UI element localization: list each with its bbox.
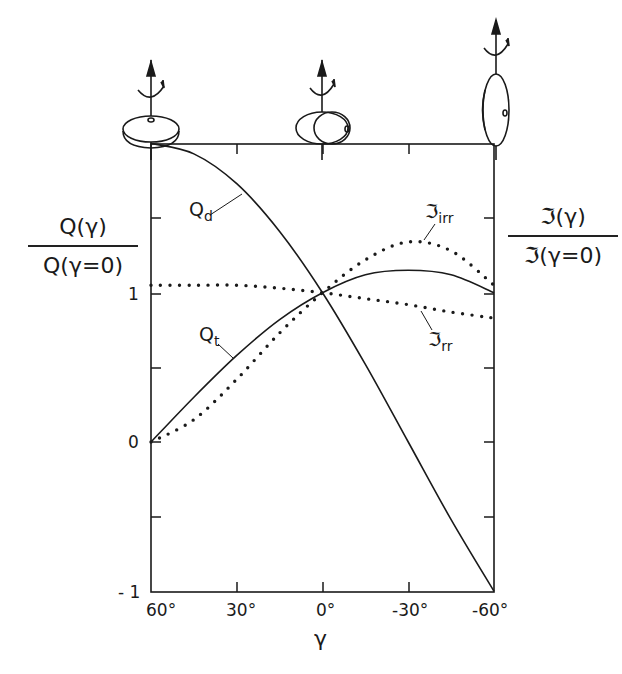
right-axis-label: ℑ(γ) ℑ(γ=0): [508, 204, 618, 268]
chart-canvas: [0, 0, 622, 674]
x-tick-minus30: -30°: [392, 600, 428, 620]
label-rr: ℑrr: [428, 330, 453, 353]
x-tick-30: 30°: [226, 600, 256, 620]
x-axis-label: γ: [314, 628, 327, 650]
x-tick-60: 60°: [146, 600, 176, 620]
left-axis-label: Q(γ) Q(γ=0): [28, 214, 138, 278]
prolate-disk-icon: [483, 20, 510, 160]
leader-lines: [210, 194, 435, 358]
y-tick-1: 1: [128, 284, 139, 304]
x-tick-minus60: -60°: [472, 600, 508, 620]
y-tick-0: 0: [128, 432, 139, 452]
x-tick-0: 0°: [316, 600, 335, 620]
label-irr: ℑirr: [425, 202, 453, 225]
curve-rr: [151, 285, 494, 318]
label-qd: Qd: [189, 200, 213, 223]
label-qt: Qt: [199, 325, 219, 348]
y-tick-minus1: - 1: [118, 582, 140, 602]
curve-qt: [151, 270, 494, 442]
